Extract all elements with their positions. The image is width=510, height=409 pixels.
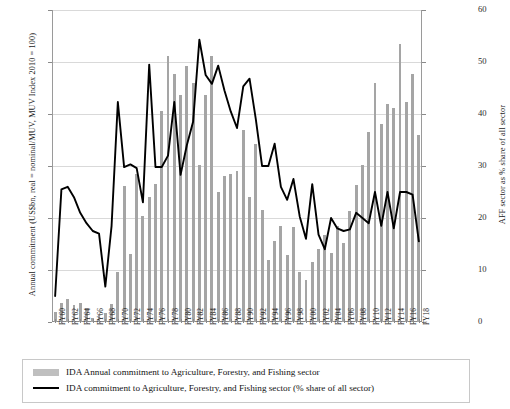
chart-legend: IDA Annual commitment to Agriculture, Fo… (22, 359, 470, 403)
x-axis-tick-mark (80, 319, 81, 323)
x-axis-tick-mark (250, 319, 251, 323)
x-axis-tick-mark (350, 319, 351, 323)
x-axis-tick-label: FY92 (259, 308, 268, 325)
x-axis-tick-mark (319, 319, 320, 323)
x-axis-tick-label: FY70 (121, 308, 130, 325)
x-axis-tick-label: FY72 (133, 308, 142, 325)
x-axis-tick-mark (124, 319, 125, 323)
x-axis-tick-mark (99, 319, 100, 323)
x-axis-tick-mark (413, 319, 414, 323)
x-axis-tick-mark (105, 319, 106, 323)
x-axis-tick-mark (155, 319, 156, 323)
x-axis-tick-mark (143, 319, 144, 323)
x-axis-tick-mark (262, 319, 263, 323)
x-axis-tick-mark (187, 319, 188, 323)
y-axis-right-tick-label: 30 (478, 160, 510, 170)
x-axis-tick-label: FY76 (158, 308, 167, 325)
x-axis-tick-mark (168, 319, 169, 323)
x-axis-tick-mark (312, 319, 313, 323)
x-axis-tick-label: FY82 (196, 308, 205, 325)
x-axis-tick-mark (281, 319, 282, 323)
x-axis-tick-mark (362, 319, 363, 323)
y-axis-right-tick-mark (422, 166, 426, 167)
y-axis-left-tick-mark (48, 10, 52, 11)
y-axis-right-tick-label: 0 (478, 316, 510, 326)
x-axis-tick-mark (130, 319, 131, 323)
x-axis-tick-label: FY16 (409, 308, 418, 325)
y-axis-left-title: Annual commitment (US$bn, real = nominal… (28, 15, 37, 315)
x-axis-tick-mark (394, 319, 395, 323)
legend-item-bars: IDA Annual commitment to Agriculture, Fo… (33, 365, 320, 379)
x-axis-tick-label: FY18 (422, 308, 431, 325)
x-axis-tick-mark (369, 319, 370, 323)
x-axis-tick-mark (300, 319, 301, 323)
y-axis-right-tick-mark (422, 270, 426, 271)
x-axis-tick-mark (193, 319, 194, 323)
x-axis-tick-label: FY10 (372, 308, 381, 325)
x-axis-tick-label: FY86 (221, 308, 230, 325)
x-axis-tick-mark (337, 319, 338, 323)
x-axis-tick-mark (287, 319, 288, 323)
x-axis-tick-label: FY08 (359, 308, 368, 325)
x-axis-tick-mark (137, 319, 138, 323)
x-axis-tick-mark (231, 319, 232, 323)
x-axis-tick-mark (181, 319, 182, 323)
x-axis-tick-label: FY66 (96, 308, 105, 325)
y-axis-left-tick-mark (48, 270, 52, 271)
y-axis-right-tick-label: 40 (478, 108, 510, 118)
x-axis-tick-mark (74, 319, 75, 323)
legend-label-line: IDA commitment to Agriculture, Forestry,… (66, 383, 374, 393)
x-axis-tick-mark (400, 319, 401, 323)
x-axis-tick-mark (112, 319, 113, 323)
y-axis-left-tick-mark (48, 114, 52, 115)
x-axis-tick-label: FY80 (184, 308, 193, 325)
x-axis-tick-label: FY64 (83, 308, 92, 325)
x-axis-tick-mark (325, 319, 326, 323)
x-axis-tick-mark (218, 319, 219, 323)
x-axis-tick-label: FY98 (296, 308, 305, 325)
x-axis-tick-mark (331, 319, 332, 323)
x-axis-tick-label: FY06 (347, 308, 356, 325)
y-axis-right-tick-mark (422, 10, 426, 11)
y-axis-right-tick-label: 50 (478, 56, 510, 66)
y-axis-right-tick-mark (422, 62, 426, 63)
x-axis-tick-mark (381, 319, 382, 323)
y-axis-left-tick-mark (48, 62, 52, 63)
x-axis-tick-mark (224, 319, 225, 323)
x-axis-tick-label: FY94 (271, 308, 280, 325)
x-axis-tick-mark (243, 319, 244, 323)
x-axis-tick-label: FY84 (209, 308, 218, 325)
x-axis-tick-mark (68, 319, 69, 323)
x-axis-tick-mark (149, 319, 150, 323)
x-axis-tick-label: FY04 (334, 308, 343, 325)
x-axis-tick-mark (118, 319, 119, 323)
x-axis-tick-mark (344, 319, 345, 323)
x-axis-tick-mark (174, 319, 175, 323)
x-axis-tick-mark (162, 319, 163, 323)
legend-line-swatch-icon (33, 387, 59, 389)
x-axis-tick-mark (237, 319, 238, 323)
x-axis-tick-mark (406, 319, 407, 323)
x-axis-tick-mark (388, 319, 389, 323)
x-axis-tick-mark (268, 319, 269, 323)
x-axis-tick-label: FY14 (397, 308, 406, 325)
x-axis-tick-label: FY88 (234, 308, 243, 325)
y-axis-right-tick-mark (422, 114, 426, 115)
x-axis-tick-label: FY90 (246, 308, 255, 325)
x-axis-tick-mark (93, 319, 94, 323)
legend-label-bars: IDA Annual commitment to Agriculture, Fo… (66, 367, 320, 377)
y-axis-right-tick-label: 20 (478, 212, 510, 222)
y-axis-right-tick-label: 60 (478, 4, 510, 14)
y-axis-left-tick-mark (48, 218, 52, 219)
x-axis-tick-mark (256, 319, 257, 323)
x-axis-tick-mark (55, 319, 56, 323)
x-axis-tick-label: FY78 (171, 308, 180, 325)
x-axis-tick-mark (356, 319, 357, 323)
x-axis-tick-label: FY60 (58, 308, 67, 325)
y-axis-right-tick-label: 10 (478, 264, 510, 274)
y-axis-right-tick-mark (422, 218, 426, 219)
line-series (52, 10, 422, 322)
x-axis-tick-label: FY68 (108, 308, 117, 325)
x-axis-tick-mark (206, 319, 207, 323)
